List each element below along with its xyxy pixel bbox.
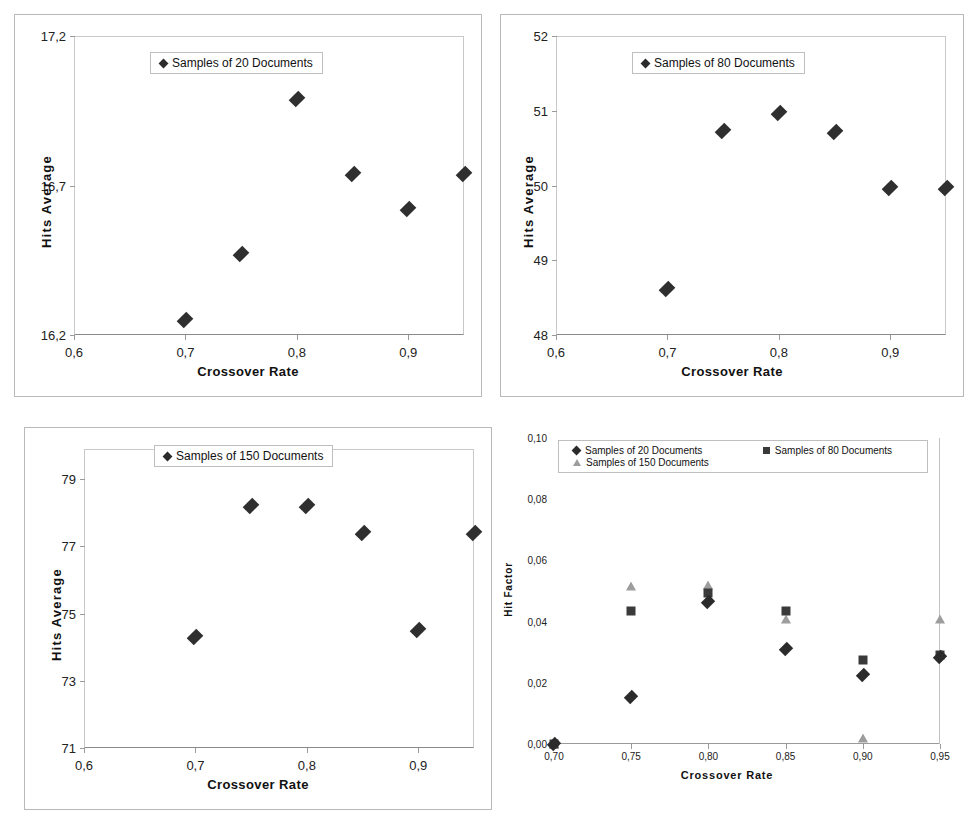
y-axis-label-c: Hits Average [49,555,64,675]
x-tick-label: 0,9 [409,758,427,773]
chart-panel-samples-80: 48495051520,60,70,80,9 Hits Average Cros… [500,14,964,397]
x-tick-mark [195,748,196,753]
y-tick-mark [80,546,85,547]
y-tick-mark [552,111,557,112]
legend-c: Samples of 150 Documents [154,445,333,467]
legend-item-d-0: Samples of 20 Documents [573,445,709,456]
x-tick-label: 0,95 [930,751,949,762]
x-tick-mark [863,744,864,749]
x-axis-label-a: Crossover Rate [14,364,482,379]
plot-frame-d [554,438,940,744]
legend-label: Samples of 150 Documents [176,449,323,463]
x-tick-label: 0,80 [699,751,718,762]
y-tick-label: 0,00 [492,739,547,750]
y-tick-label: 0,10 [492,433,547,444]
x-tick-label: 0,6 [75,758,93,773]
y-tick-label: 71 [24,741,76,756]
square-marker-icon [763,447,770,454]
plot-area-c [84,449,474,748]
data-point-square [781,606,790,615]
diamond-marker-icon [572,446,582,456]
y-tick-label: 79 [24,472,76,487]
x-tick-label: 0,9 [881,345,899,360]
x-axis-label-b: Crossover Rate [500,364,964,379]
x-axis-label-d: Crossover Rate [492,769,962,781]
x-tick-label: 0,6 [547,345,565,360]
legend-item-d-2: Samples of 150 Documents [573,457,709,468]
x-tick-mark [556,335,557,340]
y-tick-label: 0,06 [492,555,547,566]
x-tick-mark [940,744,941,749]
data-point-triangle [935,614,945,623]
chart-panel-samples-20: 16,216,717,20,60,70,80,9 Hits Average Cr… [14,14,482,397]
y-axis-label-d: Hit Factor [503,540,514,640]
x-tick-label: 0,70 [544,751,563,762]
x-tick-label: 0,8 [770,345,788,360]
y-tick-label: 0,08 [492,494,547,505]
chart-panel-hit-factor: 0,000,020,040,060,080,100,700,750,800,85… [492,424,962,802]
y-tick-label: 48 [500,328,548,343]
data-point-triangle [858,733,868,742]
diamond-marker-icon [641,58,651,68]
x-axis-label-c: Crossover Rate [24,777,492,792]
x-tick-mark [631,744,632,749]
diamond-marker-icon [159,58,169,68]
plot-frame-a [74,36,464,335]
legend-label: Samples of 80 Documents [775,445,892,456]
data-point-square [858,655,867,664]
x-tick-mark [786,744,787,749]
y-tick-label: 52 [500,29,548,44]
x-tick-label: 0,6 [65,345,83,360]
y-tick-mark [80,479,85,480]
y-tick-label: 0,04 [492,616,547,627]
x-tick-label: 0,7 [186,758,204,773]
y-tick-label: 77 [24,539,76,554]
y-axis-label-a: Hits Average [39,142,54,262]
x-tick-label: 0,7 [176,345,194,360]
plot-area-a [74,36,464,335]
legend-d: Samples of 20 Documents Samples of 150 D… [558,440,928,473]
data-point-triangle [626,582,636,591]
figure-grid: 16,216,717,20,60,70,80,9 Hits Average Cr… [0,0,972,833]
chart-panel-samples-150: 71737577790,60,70,80,9 Hits Average Cros… [24,427,492,810]
legend-a: Samples of 20 Documents [150,52,323,74]
y-tick-label: 16,2 [14,328,66,343]
y-tick-mark [80,614,85,615]
y-tick-label: 17,2 [14,29,66,44]
legend-item-d-1: Samples of 80 Documents [763,445,892,456]
y-tick-mark [552,36,557,37]
x-tick-mark [890,335,891,340]
x-tick-label: 0,7 [658,345,676,360]
x-tick-mark [708,744,709,749]
triangle-marker-icon [573,459,581,466]
y-tick-mark [552,186,557,187]
x-tick-mark [74,335,75,340]
x-tick-mark [779,335,780,340]
diamond-marker-icon [163,451,173,461]
x-tick-mark [667,335,668,340]
right-spine [939,438,940,744]
legend-label: Samples of 20 Documents [585,445,702,456]
y-axis-label-b: Hits Average [521,142,536,262]
x-tick-mark [185,335,186,340]
legend-b: Samples of 80 Documents [632,52,805,74]
legend-item-a-0: Samples of 20 Documents [160,56,313,70]
y-tick-mark [80,681,85,682]
x-tick-label: 0,75 [621,751,640,762]
y-tick-label: 0,02 [492,677,547,688]
plot-area-d [554,438,940,744]
y-tick-label: 51 [500,103,548,118]
x-tick-mark [297,335,298,340]
x-tick-mark [84,748,85,753]
x-tick-label: 0,9 [399,345,417,360]
plot-area-b [556,36,946,335]
data-point-triangle [781,614,791,623]
y-tick-mark [70,36,75,37]
x-tick-label: 0,8 [298,758,316,773]
plot-frame-c [84,449,474,748]
x-tick-mark [307,748,308,753]
x-tick-label: 0,85 [776,751,795,762]
x-tick-mark [408,335,409,340]
y-tick-mark [552,260,557,261]
x-tick-label: 0,90 [853,751,872,762]
